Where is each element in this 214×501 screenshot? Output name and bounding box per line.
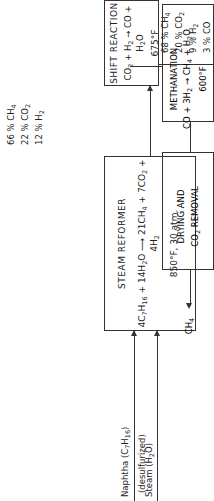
methanation-conditions: 600°F (197, 20, 210, 138)
drying-co2-removal-box: DRYING AND CO2 REMOVAL (162, 152, 214, 270)
methanation-reaction: CO + 3H2 → CH4 + H2O (181, 20, 197, 138)
co2-removal-label: CO2 REMOVAL (188, 158, 205, 276)
reformer-outlet-composition: 66 % CH422 % CO212 % H2 (6, 104, 48, 145)
methanation-title: METHANATION (168, 20, 181, 138)
methanation-box: METHANATION CO + 3H2 → CH4 + H2O 600°F (162, 4, 214, 122)
product-line (190, 270, 191, 306)
product-arrow-icon (186, 303, 192, 309)
product-label: CH4 (184, 318, 196, 334)
steam-reformer-title: STEAM REFORMER (117, 157, 127, 330)
downstream-section: METHANATION CO + 3H2 → CH4 + H2O 600°F D… (130, 0, 214, 501)
shift-reaction-title: SHIFT REACTION (109, 1, 119, 85)
connector (130, 66, 162, 67)
connector (190, 122, 191, 152)
drying-label: DRYING AND (174, 158, 188, 276)
